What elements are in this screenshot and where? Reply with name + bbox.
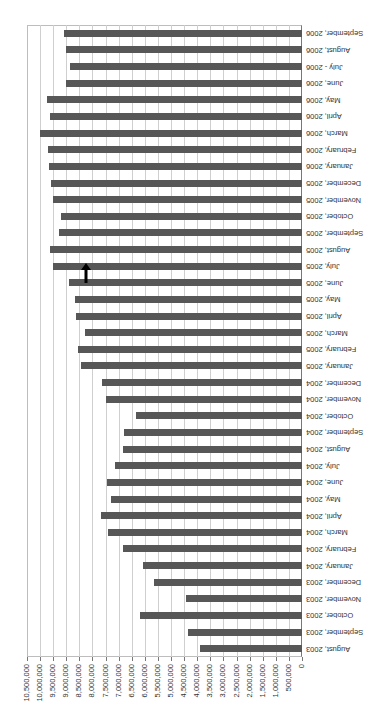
category-label: July, 2005: [306, 261, 376, 271]
bar: [70, 63, 302, 70]
tick-mark: [276, 657, 277, 661]
gridline: [40, 25, 41, 657]
bar: [81, 362, 302, 369]
bar: [76, 313, 302, 320]
bar: [108, 529, 302, 536]
bar: [107, 479, 302, 486]
bar: [66, 80, 302, 87]
category-label: May, 2006: [306, 95, 376, 105]
bar: [101, 512, 302, 519]
tick-mark: [66, 657, 67, 661]
tick-label: 5,500,000: [153, 664, 162, 697]
tick-label: 4,000,000: [192, 664, 201, 697]
category-label: August, 2003: [306, 644, 376, 654]
bar: [123, 545, 302, 552]
bar: [40, 130, 302, 137]
category-label: April, 2005: [306, 311, 376, 321]
category-label: March, 2004: [306, 527, 376, 537]
category-label: January, 2004: [306, 561, 376, 571]
bar: [48, 146, 302, 153]
bar: [66, 46, 302, 53]
category-label: December, 2004: [306, 378, 376, 388]
tick-label: 9,000,000: [61, 664, 70, 697]
tick-label: 5,000,000: [166, 664, 175, 697]
category-label: August, 2005: [306, 245, 376, 255]
category-label: July, 2004: [306, 461, 376, 471]
category-label: January, 2006: [306, 161, 376, 171]
bar: [61, 213, 302, 220]
tick-mark: [302, 657, 303, 661]
tick-label: 7,500,000: [101, 664, 110, 697]
bar: [59, 229, 302, 236]
category-label: December, 2005: [306, 178, 376, 188]
category-label: October, 2003: [306, 610, 376, 620]
tick-mark: [210, 657, 211, 661]
category-label: May, 2005: [306, 294, 376, 304]
tick-label: 10,500,000: [22, 664, 31, 702]
category-label: November, 2004: [306, 394, 376, 404]
bar: [140, 612, 302, 619]
bar: [75, 296, 302, 303]
tick-mark: [171, 657, 172, 661]
category-label: November, 2005: [306, 195, 376, 205]
up-arrow-icon: [80, 262, 92, 284]
tick-label: 3,000,000: [218, 664, 227, 697]
bar: [136, 412, 302, 419]
category-label: February, 2005: [306, 344, 376, 354]
category-label: July - 2006: [306, 62, 376, 72]
category-label: March, 2006: [306, 128, 376, 138]
bar: [69, 279, 302, 286]
bar: [111, 496, 302, 503]
tick-label: 6,500,000: [127, 664, 136, 697]
tick-mark: [250, 657, 251, 661]
tick-mark: [40, 657, 41, 661]
tick-label: 2,000,000: [245, 664, 254, 697]
tick-label: 9,500,000: [48, 664, 57, 697]
category-label: June, 2006: [306, 78, 376, 88]
tick-label: 2,500,000: [232, 664, 241, 697]
category-label: April, 2006: [306, 111, 376, 121]
category-label: June, 2005: [306, 278, 376, 288]
tick-label: 8,500,000: [74, 664, 83, 697]
bar: [78, 346, 302, 353]
bar: [53, 196, 302, 203]
tick-label: 1,000,000: [271, 664, 280, 697]
bar: [64, 30, 302, 37]
tick-label: 6,000,000: [140, 664, 149, 697]
tick-mark: [145, 657, 146, 661]
category-label: October, 2005: [306, 211, 376, 221]
bar: [200, 645, 302, 652]
category-label: October, 2004: [306, 411, 376, 421]
category-label: June, 2004: [306, 477, 376, 487]
tick-label: 4,500,000: [179, 664, 188, 697]
tick-label: 3,500,000: [205, 664, 214, 697]
bar: [50, 113, 302, 120]
category-label: September, 2005: [306, 228, 376, 238]
tick-mark: [223, 657, 224, 661]
bar: [85, 329, 302, 336]
bar: [50, 246, 302, 253]
bar: [51, 180, 302, 187]
tick-mark: [158, 657, 159, 661]
tick-mark: [27, 657, 28, 661]
category-label: September, 2006: [306, 28, 376, 38]
bar: [188, 629, 302, 636]
tick-label: 8,000,000: [87, 664, 96, 697]
tick-mark: [53, 657, 54, 661]
bar: [154, 579, 302, 586]
bar: [123, 446, 302, 453]
tick-label: 1,500,000: [258, 664, 267, 697]
category-label: November, 2003: [306, 594, 376, 604]
tick-mark: [237, 657, 238, 661]
tick-mark: [79, 657, 80, 661]
category-label: February, 2004: [306, 544, 376, 554]
category-label: March, 2005: [306, 328, 376, 338]
tick-label: 0: [297, 664, 306, 668]
bar: [143, 562, 303, 569]
rotated-bar-chart: August, 2003September, 2003October, 2003…: [0, 0, 381, 726]
tick-mark: [184, 657, 185, 661]
bar: [124, 429, 302, 436]
bar: [102, 379, 302, 386]
category-label: September, 2003: [306, 627, 376, 637]
category-label: August, 2004: [306, 444, 376, 454]
